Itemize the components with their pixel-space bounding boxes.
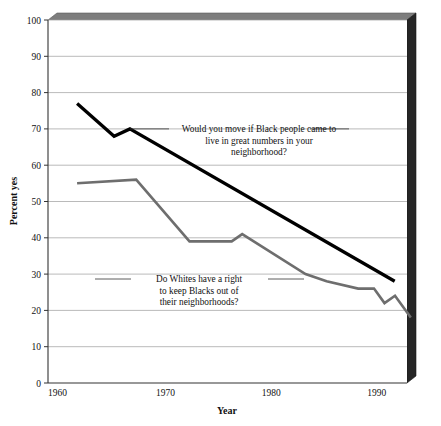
y-tick-label: 0 — [36, 379, 41, 389]
chart-container: 100 90 80 70 60 50 40 30 20 10 0 1960 19… — [0, 0, 441, 426]
y-tick-label: 20 — [32, 306, 42, 316]
plot-right-shadow — [407, 13, 416, 383]
annotation-line: to keep Blacks out of — [159, 286, 239, 296]
x-axis-tick-labels: 1960 1970 1980 1990 — [48, 388, 387, 398]
plot-top-shadow — [48, 13, 416, 20]
y-tick-label: 10 — [32, 342, 42, 352]
y-axis-ticks — [44, 20, 48, 383]
annotation-line: live in great numbers in your — [205, 136, 314, 146]
y-axis-title: Percent yes — [8, 177, 19, 226]
annotation-line: Would you move if Black people came to — [182, 124, 337, 134]
line-chart: 100 90 80 70 60 50 40 30 20 10 0 1960 19… — [0, 0, 441, 426]
y-tick-label: 70 — [32, 124, 42, 134]
annotation-line: neighborhood? — [231, 147, 287, 157]
x-axis-title: Year — [217, 405, 238, 416]
x-tick-label: 1970 — [156, 388, 175, 398]
y-tick-label: 60 — [32, 161, 42, 171]
y-tick-label: 80 — [32, 88, 42, 98]
x-tick-label: 1990 — [367, 388, 386, 398]
x-tick-label: 1960 — [48, 388, 67, 398]
y-tick-label: 50 — [32, 197, 42, 207]
annotation-line: their neighborhoods? — [160, 297, 239, 307]
annotation-right-question: Do Whites have a right to keep Blacks ou… — [156, 274, 242, 307]
annotation-line: Do Whites have a right — [156, 274, 242, 284]
y-axis-tick-labels: 100 90 80 70 60 50 40 30 20 10 0 — [27, 16, 42, 389]
y-tick-label: 90 — [32, 52, 42, 62]
y-tick-label: 100 — [27, 16, 42, 26]
y-tick-label: 30 — [32, 270, 42, 280]
x-tick-label: 1980 — [262, 388, 281, 398]
y-tick-label: 40 — [32, 233, 42, 243]
